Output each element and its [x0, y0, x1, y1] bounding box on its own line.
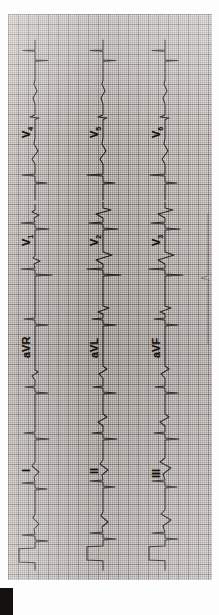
- lead-label-V3: V3: [150, 235, 164, 246]
- lead-label-V1: V1: [20, 235, 34, 246]
- trace-V3: [149, 202, 183, 314]
- lead-label-aVL: aVL: [88, 338, 100, 358]
- trace-II: [87, 426, 117, 570]
- trace-V5: [87, 40, 116, 200]
- trace-V6: [150, 40, 178, 200]
- trace-edge-fragment: [201, 214, 209, 344]
- ecg-page: V4 V5 V6 V1 V2 V3 aVR aVL aVF I II III E…: [0, 0, 219, 615]
- trace-I: [19, 426, 49, 570]
- lead-label-V5: V5: [88, 127, 102, 138]
- trace-V2: [87, 202, 121, 314]
- lead-label-aVF: aVF: [150, 338, 162, 358]
- lead-label-V6: V6: [150, 127, 164, 138]
- lead-label-III: III: [150, 469, 162, 478]
- lead-label-V4: V4: [20, 127, 34, 138]
- lead-label-I: I: [20, 469, 32, 472]
- ecg-traces: [8, 14, 212, 580]
- ecg-paper: [8, 14, 212, 580]
- lead-label-aVR: aVR: [20, 337, 32, 358]
- trace-aVF: [154, 314, 178, 426]
- caption-block: ECG: [0, 588, 13, 615]
- trace-III: [149, 426, 179, 570]
- lead-label-V2: V2: [88, 235, 102, 246]
- ecg-waveform-svg: [8, 14, 212, 580]
- trace-aVR: [24, 314, 48, 426]
- trace-V4: [22, 40, 48, 200]
- trace-V1: [21, 204, 52, 314]
- trace-aVL: [92, 314, 116, 426]
- lead-label-II: II: [88, 468, 100, 474]
